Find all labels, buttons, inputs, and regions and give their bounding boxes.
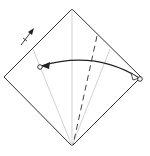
origami-diagram xyxy=(0,0,150,156)
paper-outline xyxy=(4,9,141,146)
start-point-marker xyxy=(138,77,143,82)
turn-over-arrow-shaft xyxy=(21,32,31,45)
turn-over-arrowhead-icon xyxy=(28,28,34,35)
target-point-marker xyxy=(38,65,43,70)
